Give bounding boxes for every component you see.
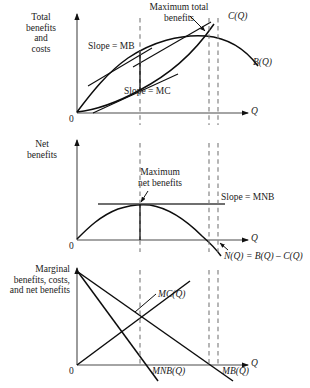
middle-origin-label: 0 [69,241,74,252]
net-benefit-curve [77,205,221,256]
bottom-origin-label: 0 [69,366,74,377]
benefit-curve-label: B(Q) [253,57,272,68]
max-net-benefits-pointer [141,191,148,202]
cost-curve [77,24,214,112]
dashed-guides [140,18,218,365]
marginal-net-benefit-curve-label: MNB(Q) [152,366,185,377]
middle-x-axis-label: Q [251,233,258,244]
cost-curve-label: C(Q) [228,11,248,22]
slope-mc-label: Slope = MC [124,86,171,97]
maximum-net-benefits-label: Maximum net benefits [124,167,196,188]
top-origin-label: 0 [69,114,74,125]
slope-mnb-label: Slope = MNB [221,192,274,203]
top-y-axis-label: Total benefits and costs [12,12,70,54]
maximum-total-benefits-label: Maximum total benefits [134,2,224,23]
net-benefit-curve-label: N(Q) = B(Q) – C(Q) [224,251,303,262]
middle-panel-axes [77,140,248,240]
marginal-cost-curve-label: MC(Q) [158,289,185,300]
middle-y-axis-label: Net benefits [14,139,70,160]
tangent-mb-line [88,48,152,86]
tangent-peak-line [133,22,211,67]
slope-mb-label: Slope = MB [88,41,135,52]
top-x-axis-label: Q [251,106,258,117]
net-benefit-label-pointer [220,243,228,250]
economics-figure: Total benefits and costs 0 Q Slope = MB … [0,0,310,388]
top-panel-axes [77,14,248,113]
bottom-y-axis-label: Marginal benefits, costs, and net benefi… [2,264,70,296]
marginal-benefit-curve-label: MB(Q) [222,366,249,377]
bottom-x-axis-label: Q [251,358,258,369]
bottom-panel-axes [77,268,248,365]
